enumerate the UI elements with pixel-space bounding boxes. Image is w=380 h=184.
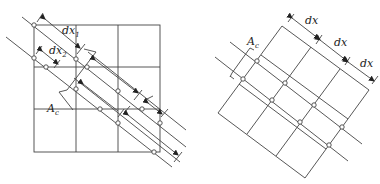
label-area-left: Ac <box>46 102 59 117</box>
label-dx-right-1: dx <box>305 14 319 27</box>
label-dx-right-3: dx <box>360 57 374 70</box>
right-panel <box>215 14 378 178</box>
label-dx-right-2: dx <box>334 36 348 49</box>
left-panel <box>6 13 186 167</box>
label-area-right: Ac <box>246 35 259 50</box>
right-dimensions <box>288 14 378 84</box>
right-rays <box>215 42 362 161</box>
left-sample-points <box>32 23 162 154</box>
label-dx2: dx2 <box>49 44 67 59</box>
left-rays <box>6 17 186 167</box>
right-area-strip <box>230 48 254 79</box>
label-dx1: dx1 <box>62 24 80 39</box>
diagram-canvas: dx1 dx2 Ac <box>0 0 380 184</box>
